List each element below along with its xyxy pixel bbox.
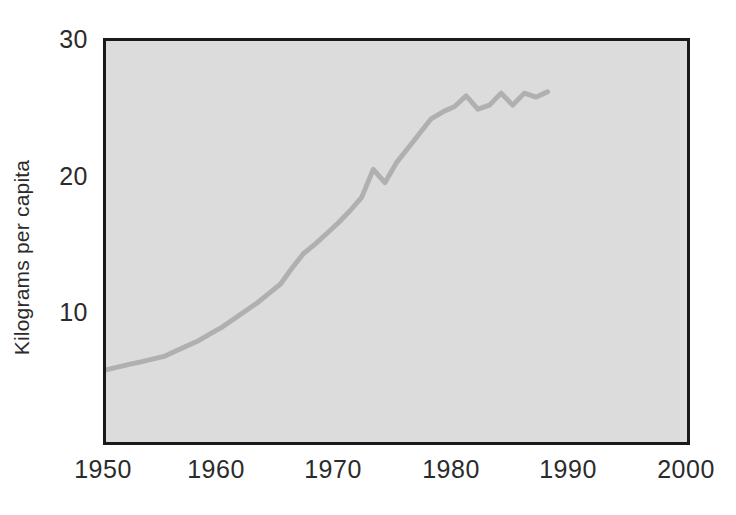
plot-area xyxy=(103,38,690,445)
chart-figure: Kilograms per capita 30 20 10 1950 1960 … xyxy=(0,0,736,515)
x-tick-label-1950: 1950 xyxy=(48,455,158,484)
series-line-kilograms-per-capita xyxy=(106,92,548,370)
y-tick-label-30: 30 xyxy=(28,25,88,54)
x-tick-label-1990: 1990 xyxy=(513,455,623,484)
y-tick-label-10: 10 xyxy=(28,298,88,327)
x-tick-label-1970: 1970 xyxy=(278,455,388,484)
x-tick-label-1980: 1980 xyxy=(396,455,506,484)
x-tick-label-1960: 1960 xyxy=(161,455,271,484)
data-line-svg xyxy=(106,41,687,442)
x-tick-label-2000: 2000 xyxy=(631,455,736,484)
y-axis-title: Kilograms per capita xyxy=(0,0,44,515)
y-tick-label-20: 20 xyxy=(28,162,88,191)
